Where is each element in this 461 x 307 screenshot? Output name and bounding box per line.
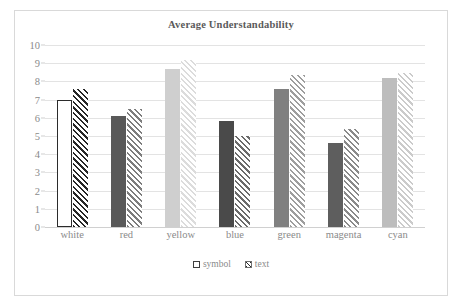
y-axis-tick-label: 0 [35,222,40,233]
bar-group [45,45,99,227]
legend-item-symbol[interactable]: symbol [193,259,231,269]
bar-blue-symbol[interactable] [219,121,234,227]
bar-groups [45,45,425,227]
x-axis-label-yellow: yellow [154,229,208,240]
x-axis-label-magenta: magenta [316,229,370,240]
bar-white-symbol[interactable] [57,100,72,227]
bar-red-text[interactable] [127,109,142,227]
bar-group [262,45,316,227]
hatched-square-swatch [245,261,252,268]
y-axis-tick-label: 6 [35,112,40,123]
x-axis-label-blue: blue [208,229,262,240]
bar-cyan-symbol[interactable] [382,78,397,227]
axis-line-zero [45,227,425,228]
bar-cyan-text[interactable] [398,73,413,227]
bar-group [99,45,153,227]
bar-group [371,45,425,227]
plot-area: 012345678910 [45,45,425,227]
y-axis-tick-label: 2 [35,185,40,196]
x-axis-label-green: green [262,229,316,240]
y-axis-tick-label: 1 [35,203,40,214]
bar-yellow-text[interactable] [181,60,196,227]
legend-label: text [255,259,269,269]
bar-blue-text[interactable] [235,136,250,227]
y-axis-tick-label: 5 [35,131,40,142]
chart-legend: symboltext [15,259,447,269]
bar-red-symbol[interactable] [111,116,126,227]
legend-item-text[interactable]: text [245,259,269,269]
bar-group [316,45,370,227]
x-axis-label-white: white [45,229,99,240]
y-axis-tick-label: 8 [35,76,40,87]
x-axis-labels: whiteredyellowbluegreenmagentacyan [45,229,425,240]
legend-label: symbol [203,259,231,269]
y-axis-tick-label: 7 [35,94,40,105]
open-square-swatch [193,261,200,268]
y-axis-tick-label: 4 [35,149,40,160]
bar-magenta-text[interactable] [344,129,359,227]
y-axis-tick-label: 9 [35,58,40,69]
bar-green-symbol[interactable] [274,89,289,227]
bar-green-text[interactable] [290,75,305,227]
x-axis-label-cyan: cyan [371,229,425,240]
bar-group [208,45,262,227]
x-axis-label-red: red [99,229,153,240]
y-axis-tick-label: 10 [30,40,41,51]
chart-frame: Average Understandability 012345678910 w… [14,10,448,296]
chart-title: Average Understandability [15,19,447,30]
y-axis-tick-label: 3 [35,167,40,178]
bar-magenta-symbol[interactable] [328,143,343,227]
bar-yellow-symbol[interactable] [165,69,180,227]
bar-white-text[interactable] [73,89,88,227]
bar-group [154,45,208,227]
